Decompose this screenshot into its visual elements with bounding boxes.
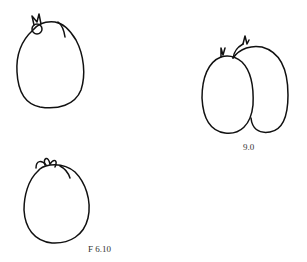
figure-canvas: 9.0 F 6.10 xyxy=(0,0,307,262)
figure-label-bottom: F 6.10 xyxy=(88,244,111,254)
fruit-pair-right xyxy=(202,36,288,133)
fruit-bottom-left xyxy=(24,158,89,243)
fruit-top-left xyxy=(17,14,84,108)
fruit-sketches xyxy=(0,0,307,262)
figure-label-right: 9.0 xyxy=(243,142,254,152)
